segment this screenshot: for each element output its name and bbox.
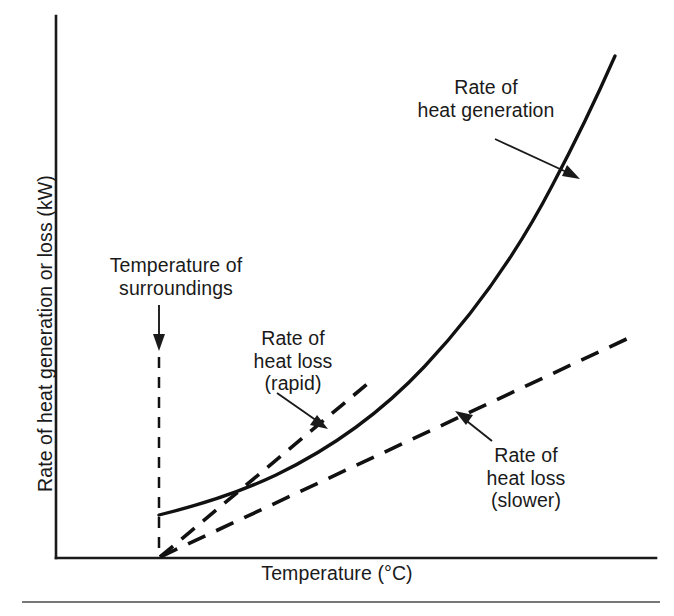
- heat-loss-rapid-line: [160, 380, 372, 557]
- heat-balance-figure: Rate of heat generation or loss (kW) Tem…: [0, 0, 674, 616]
- heat-loss-slower-leader: [455, 411, 492, 441]
- annotation-heat-loss-slower: Rate of heat loss (slower): [463, 444, 589, 512]
- annotation-ambient-temperature: Temperature of surroundings: [86, 254, 266, 299]
- annotation-heat-loss-rapid: Rate of heat loss (rapid): [231, 327, 355, 395]
- annotation-heat-generation: Rate of heat generation: [398, 76, 574, 121]
- ambient-temperature-leader: [153, 305, 165, 351]
- x-axis-title: Temperature (°C): [0, 562, 674, 585]
- heat-loss-rapid-leader: [277, 393, 328, 429]
